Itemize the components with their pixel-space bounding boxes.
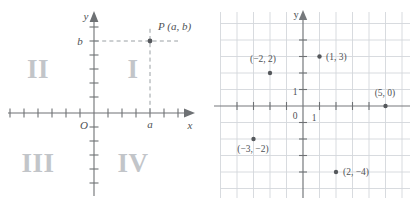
grid-x-unit-label: 1 [312, 113, 317, 123]
figure-root: II I III IV [0, 0, 412, 216]
quadrant-3-label: III [21, 148, 54, 178]
quadrant-diagram-panel: II I III IV [0, 0, 206, 216]
point-p-label: P (a, b) [157, 20, 191, 33]
point-marker-5-0 [383, 104, 387, 108]
point-label-2-neg4: (2, −4) [343, 167, 369, 178]
point-label-5-0: (5, 0) [375, 88, 396, 99]
y-axis-arrowhead [90, 11, 99, 22]
grid-y-axis-label: y [293, 9, 299, 20]
point-label-neg3-neg2: (−3, −2) [237, 144, 268, 155]
y-axis-label: y [83, 10, 89, 22]
quadrant-1-label: I [127, 54, 138, 84]
point-p-marker [148, 39, 153, 44]
point-p-y-label: b [77, 35, 83, 47]
point-label-1-3: (1, 3) [326, 52, 347, 63]
point-p-x-label: a [147, 118, 153, 130]
plotted-points-svg: y 0 1 1 (−2, 2) (1, 3) (5, 0) (−3, −2) (… [206, 0, 412, 216]
grid-y-axis-arrowhead [299, 10, 307, 20]
grid-y-unit-label: 1 [293, 87, 298, 97]
point-marker-2-neg4 [334, 170, 338, 174]
point-label-neg2-2: (−2, 2) [250, 54, 276, 65]
point-marker-neg3-neg2 [251, 137, 255, 141]
grid-origin-label: 0 [293, 111, 298, 121]
point-marker-neg2-2 [268, 71, 272, 75]
quadrant-4-label: IV [117, 148, 148, 178]
quadrant-diagram-svg: II I III IV [0, 0, 206, 216]
plotted-points-panel: y 0 1 1 (−2, 2) (1, 3) (5, 0) (−3, −2) (… [206, 0, 412, 216]
origin-label: O [80, 119, 88, 131]
point-marker-1-3 [317, 54, 321, 58]
x-axis-arrowhead [184, 109, 195, 118]
x-axis-label: x [187, 119, 193, 131]
quadrant-2-label: II [27, 54, 49, 84]
